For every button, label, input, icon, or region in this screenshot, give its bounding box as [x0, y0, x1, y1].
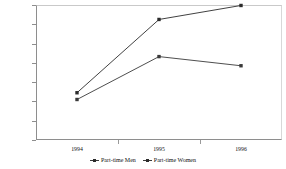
series-part-time-men — [75, 55, 242, 101]
data-point-marker — [157, 55, 160, 58]
chart-legend: Part-time Men Part-time Women — [0, 157, 286, 164]
series-line — [77, 57, 241, 100]
legend-marker-square-icon — [143, 158, 152, 163]
legend-label: Part-time Men — [101, 157, 136, 164]
data-point-marker — [75, 91, 78, 94]
legend-label: Part-time Women — [154, 157, 196, 164]
series-part-time-women — [75, 4, 242, 95]
data-point-marker — [239, 64, 242, 67]
legend-item-part-time-men[interactable]: Part-time Men — [90, 157, 136, 164]
series-layer — [0, 0, 286, 169]
data-point-marker — [75, 98, 78, 101]
data-point-marker — [157, 18, 160, 21]
line-chart: 2000002200002400002600002800003000003200… — [0, 0, 286, 169]
legend-marker-square-icon — [90, 158, 99, 163]
data-point-marker — [239, 4, 242, 7]
legend-item-part-time-women[interactable]: Part-time Women — [143, 157, 196, 164]
